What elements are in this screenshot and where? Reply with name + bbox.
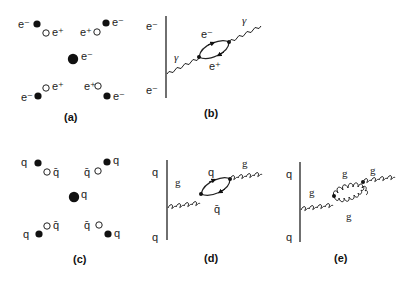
- quark-bottom-label: q: [286, 231, 292, 243]
- quark-label: q: [114, 227, 120, 239]
- gluon-out-label: g: [370, 164, 376, 176]
- panel-caption-c: (c): [73, 253, 87, 265]
- antiquark-circle: [95, 168, 101, 174]
- positron-circle: [43, 30, 49, 36]
- panel-caption-d: (d): [204, 252, 218, 264]
- quark-label: q: [23, 228, 29, 240]
- gluon-line-in: [301, 204, 333, 211]
- antiquark-label: q̄: [84, 219, 90, 231]
- panel-b-photon-loop: e⁻ e⁻ γ e⁻ e⁺ γ (b): [146, 14, 261, 119]
- quark-label: q: [113, 154, 119, 166]
- loop-gluon-bottom-label: g: [346, 210, 352, 222]
- quark-top-label: q: [152, 166, 158, 178]
- electron-label: e⁻: [112, 16, 124, 28]
- loop-electron-label: e⁻: [201, 28, 213, 40]
- photon-out-label: γ: [242, 14, 247, 26]
- electron-positron-loop: [199, 41, 229, 59]
- panel-e-gluon-gluon-loop: q q g g g g (e): [286, 162, 395, 264]
- gluon-line-in: [168, 202, 200, 209]
- loop-gluon-top-label: g: [342, 167, 348, 179]
- loop-quark-label: q: [208, 166, 214, 178]
- panel-d-gluon-quark-loop: q q g q q̄ g (d): [152, 157, 262, 264]
- positron-circle: [94, 29, 100, 35]
- panel-c-color-screening: q q̄ q̄ q q q̄ q q̄ q (c): [21, 154, 120, 265]
- positron-label: e⁺: [80, 26, 92, 38]
- gluon-line-out: [363, 176, 395, 183]
- quark-dot: [103, 158, 110, 165]
- electron-label: e⁻: [113, 90, 125, 102]
- loop-positron-label: e⁺: [209, 60, 221, 72]
- vertex-dot: [197, 55, 201, 59]
- electron-dot: [34, 92, 41, 99]
- antiquark-label: q̄: [53, 166, 59, 178]
- electron-top-label: e⁻: [146, 20, 158, 32]
- photon-line-out: [229, 26, 261, 42]
- antiquark-circle: [44, 223, 50, 229]
- central-electron-dot: [68, 54, 78, 64]
- antiquark-circle: [96, 222, 102, 228]
- electron-dot: [103, 92, 110, 99]
- feynman-diagram-figure: e⁻ e⁺ e⁺ e⁻ e⁻ e⁺ e⁻ e⁺ e⁻ (a) e⁻ e⁻ γ: [0, 0, 410, 281]
- antiquark-label: q̄: [53, 219, 59, 231]
- loop-antiquark-label: q̄: [214, 203, 220, 215]
- vertex-dot: [332, 194, 336, 198]
- positron-label: e⁺: [52, 26, 64, 38]
- electron-dot: [33, 20, 40, 27]
- gluon-loop-upper: [333, 183, 367, 196]
- central-electron-label: e⁻: [81, 50, 93, 62]
- quark-dot: [104, 230, 111, 237]
- gluon-in-label: g: [309, 186, 315, 198]
- gluon-out-label: g: [242, 157, 248, 169]
- electron-label: e⁻: [21, 91, 33, 103]
- positron-label: e⁺: [52, 80, 64, 92]
- arrow-icon: [219, 52, 224, 55]
- antiquark-circle: [44, 169, 50, 175]
- electron-dot: [102, 19, 109, 26]
- panel-a-charge-screening: e⁻ e⁺ e⁺ e⁻ e⁻ e⁺ e⁻ e⁺ e⁻ (a): [18, 16, 125, 123]
- antiquark-label: q̄: [84, 166, 90, 178]
- central-quark-dot: [69, 192, 79, 202]
- quark-dot: [35, 230, 42, 237]
- panel-caption-e: (e): [334, 252, 348, 264]
- quark-bottom-label: q: [152, 231, 158, 243]
- arrow-icon: [220, 189, 225, 192]
- quark-dot: [34, 159, 41, 166]
- electron-bottom-label: e⁻: [146, 84, 158, 96]
- vertex-dot: [199, 192, 203, 196]
- electron-label: e⁻: [18, 18, 30, 30]
- quark-label: q: [21, 156, 27, 168]
- central-quark-label: q: [81, 188, 87, 200]
- photon-line-in: [167, 58, 199, 74]
- quark-top-label: q: [286, 168, 292, 180]
- quark-antiquark-loop: [201, 178, 230, 195]
- gluon-line-out: [230, 173, 262, 180]
- panel-caption-b: (b): [204, 107, 218, 119]
- panel-caption-a: (a): [64, 111, 78, 123]
- positron-circle: [43, 85, 49, 91]
- gluon-in-label: g: [175, 176, 181, 188]
- photon-in-label: γ: [174, 51, 179, 63]
- gluon-loop-lower: [334, 186, 364, 202]
